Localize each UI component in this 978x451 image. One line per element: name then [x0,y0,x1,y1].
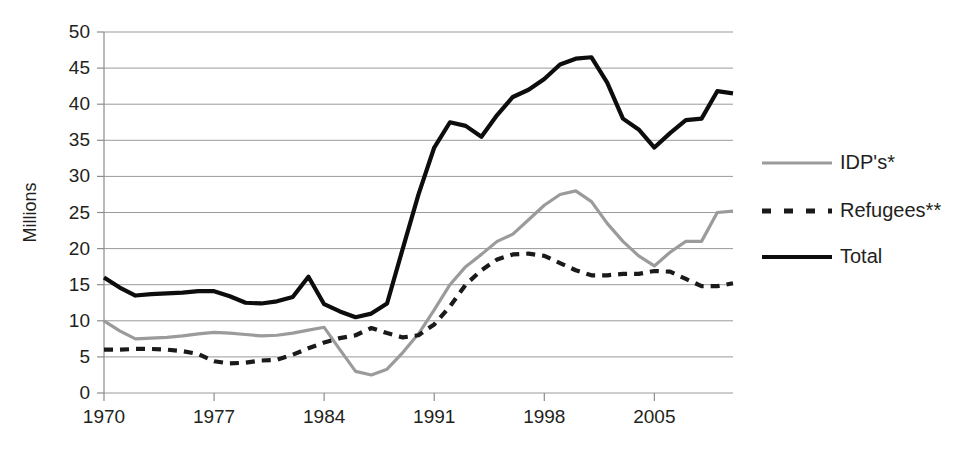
x-tick-label: 1998 [523,406,565,427]
legend-label-0: IDP's* [840,151,895,173]
x-tick-label: 1984 [303,406,346,427]
legend-label-1: Refugees** [840,199,941,221]
y-tick-label: 5 [79,346,90,367]
series-line-total [104,57,733,317]
y-tick-label: 45 [69,57,90,78]
x-axis-tick-labels: 197019771984199119982005 [83,406,676,427]
series-line-refugees [104,254,733,364]
y-axis-tick-labels: 05101520253035404550 [69,21,90,403]
legend-label-2: Total [840,245,882,267]
y-tick-label: 30 [69,165,90,186]
x-tick-label: 1970 [83,406,125,427]
x-tick-label: 1991 [413,406,455,427]
axes-group [97,32,654,401]
y-axis-title-group: Millions [20,182,40,242]
y-tick-label: 0 [79,382,90,403]
data-series-group [104,57,733,375]
y-tick-label: 40 [69,93,90,114]
y-tick-label: 35 [69,129,90,150]
displaced-persons-line-chart: 05101520253035404550 1970197719841991199… [0,0,978,451]
x-tick-label: 2005 [633,406,675,427]
y-tick-label: 20 [69,238,90,259]
legend-group: IDP's*Refugees**Total [762,151,941,267]
chart-container: 05101520253035404550 1970197719841991199… [0,0,978,451]
y-axis-title: Millions [20,182,40,242]
x-tick-label: 1977 [193,406,235,427]
y-tick-label: 15 [69,274,90,295]
y-tick-label: 10 [69,310,90,331]
y-tick-label: 50 [69,21,90,42]
series-line-idp-s [104,191,733,375]
gridlines-group [104,32,733,393]
y-tick-label: 25 [69,202,90,223]
